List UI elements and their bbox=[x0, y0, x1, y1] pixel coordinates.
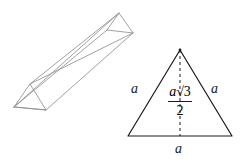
prism-near-triangle bbox=[14, 84, 46, 110]
altitude-denominator: 2 bbox=[167, 102, 193, 119]
triangular-prism-shape bbox=[14, 13, 133, 110]
triangle-altitude-label: a√3 2 bbox=[158, 84, 202, 119]
figure-svg bbox=[0, 0, 241, 162]
altitude-numerator-radical: √3 bbox=[176, 84, 191, 99]
prism-edge-top bbox=[30, 13, 119, 84]
apex-vertex-dot bbox=[179, 49, 182, 52]
altitude-numerator: a√3 bbox=[167, 84, 193, 101]
altitude-fraction: a√3 2 bbox=[167, 84, 193, 119]
triangle-side-label-right: a bbox=[211, 82, 218, 96]
triangle-base-label: a bbox=[175, 142, 182, 156]
prism-hidden-edge-diagonal bbox=[14, 107, 46, 110]
triangle-side-label-left: a bbox=[131, 82, 138, 96]
prism-far-triangle bbox=[107, 13, 133, 33]
prism-cross-edge-far bbox=[30, 33, 133, 84]
geometry-figure: a a a a√3 2 bbox=[0, 0, 241, 162]
prism-cross-edge-near bbox=[14, 13, 119, 107]
